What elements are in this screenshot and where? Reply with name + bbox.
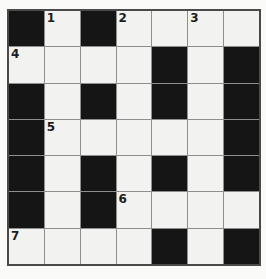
white-cell[interactable] <box>81 229 116 264</box>
clue-number: 1 <box>47 11 55 25</box>
black-cell <box>81 84 116 119</box>
black-cell <box>81 11 116 46</box>
white-cell[interactable] <box>81 47 116 82</box>
black-cell <box>152 156 187 191</box>
white-cell[interactable] <box>152 192 187 227</box>
black-cell <box>81 156 116 191</box>
white-cell[interactable]: 7 <box>9 229 44 264</box>
white-cell[interactable] <box>45 84 80 119</box>
black-cell <box>152 229 187 264</box>
white-cell[interactable] <box>224 192 259 227</box>
black-cell <box>224 84 259 119</box>
white-cell[interactable] <box>45 229 80 264</box>
white-cell[interactable] <box>152 11 187 46</box>
white-cell[interactable] <box>224 11 259 46</box>
black-cell <box>224 47 259 82</box>
black-cell <box>224 156 259 191</box>
black-cell <box>81 192 116 227</box>
clue-number: 7 <box>11 229 19 243</box>
crossword-grid: 1234567 <box>9 11 259 264</box>
white-cell[interactable] <box>188 156 223 191</box>
clue-number: 4 <box>11 47 19 61</box>
white-cell[interactable] <box>45 156 80 191</box>
white-cell[interactable] <box>188 84 223 119</box>
clue-number: 3 <box>190 11 198 25</box>
black-cell <box>9 192 44 227</box>
white-cell[interactable] <box>152 120 187 155</box>
white-cell[interactable] <box>45 47 80 82</box>
white-cell[interactable] <box>117 229 152 264</box>
black-cell <box>152 84 187 119</box>
white-cell[interactable] <box>117 47 152 82</box>
white-cell[interactable] <box>81 120 116 155</box>
black-cell <box>224 120 259 155</box>
white-cell[interactable] <box>188 120 223 155</box>
white-cell[interactable]: 3 <box>188 11 223 46</box>
white-cell[interactable] <box>117 120 152 155</box>
black-cell <box>152 47 187 82</box>
black-cell <box>9 84 44 119</box>
black-cell <box>9 11 44 46</box>
white-cell[interactable]: 1 <box>45 11 80 46</box>
clue-number: 5 <box>47 120 55 134</box>
crossword-puzzle: 1234567 <box>7 9 261 266</box>
black-cell <box>9 156 44 191</box>
black-cell <box>9 120 44 155</box>
white-cell[interactable] <box>117 156 152 191</box>
white-cell[interactable]: 2 <box>117 11 152 46</box>
clue-number: 6 <box>119 192 127 206</box>
clue-number: 2 <box>119 11 127 25</box>
white-cell[interactable] <box>188 47 223 82</box>
white-cell[interactable] <box>45 192 80 227</box>
white-cell[interactable] <box>188 192 223 227</box>
white-cell[interactable]: 4 <box>9 47 44 82</box>
black-cell <box>224 229 259 264</box>
white-cell[interactable]: 6 <box>117 192 152 227</box>
white-cell[interactable] <box>188 229 223 264</box>
white-cell[interactable]: 5 <box>45 120 80 155</box>
white-cell[interactable] <box>117 84 152 119</box>
